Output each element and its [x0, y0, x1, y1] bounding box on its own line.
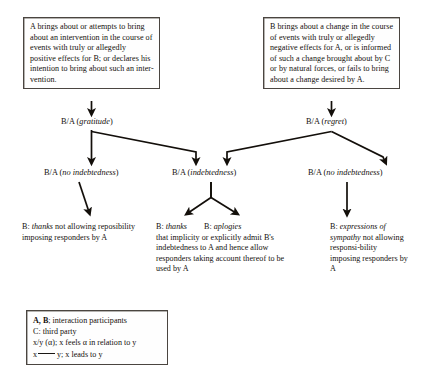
tree-node-indebtedness-prefix: B/A (	[172, 168, 190, 177]
leaf-left-emphasis: thanks	[32, 222, 53, 231]
edge-indebtedness-to-apologies	[211, 198, 236, 214]
legend-key-feels: x/y (α)	[33, 338, 55, 347]
legend-box: A, B; interaction participants C: third …	[26, 310, 168, 365]
leaf-mid-head-two-lead: B:	[204, 222, 212, 231]
tree-node-no-indebtedness-right: B/A (no indebtedness)	[308, 168, 383, 178]
edge-regret-to-no-indebtedness	[332, 132, 386, 162]
leaf-thanks-no-indebtedness: B: thanks not allowing reposibility impo…	[22, 222, 144, 243]
leaf-mid-head-one-lead: B:	[156, 222, 164, 231]
legend-row-feels: x/y (α); x feels α in relation to y	[33, 337, 162, 348]
tree-node-gratitude: B/A (gratitude)	[61, 117, 113, 127]
tree-node-indebtedness-suffix: )	[233, 168, 236, 177]
tree-node-no-indebtedness-left-emphasis: no indebtedness	[62, 168, 116, 177]
legend-row-third-party: C: third party	[33, 326, 162, 337]
legend-key-participants: A, B	[33, 316, 48, 325]
premise-box-left: A brings about or attempts to bring abou…	[23, 17, 160, 89]
leaf-right-lead: B:	[330, 222, 338, 231]
legend-text-third-party: : third party	[38, 327, 76, 336]
tree-node-no-indebtedness-right-emphasis: no indebtedness	[326, 168, 380, 177]
tree-node-gratitude-prefix: B/A (	[61, 117, 79, 126]
tree-node-no-indebtedness-left-prefix: B/A (	[44, 168, 62, 177]
edge-no-indebtedness-left-to-leaf	[79, 182, 89, 212]
legend-rule-icon	[38, 353, 55, 354]
leaf-mid-head-two: B: aplogies	[204, 222, 241, 233]
tree-node-gratitude-emphasis: gratitude	[79, 117, 110, 126]
leaf-mid-head-one: B: thanks	[156, 222, 187, 233]
tree-node-no-indebtedness-right-suffix: )	[380, 168, 383, 177]
leaf-mid-head-two-emphasis: aplogies	[214, 222, 242, 231]
legend-text-feels: ; x feels α in relation to y	[55, 338, 136, 347]
tree-node-regret-suffix: )	[344, 117, 347, 126]
tree-node-indebtedness-emphasis: indebtedness	[190, 168, 233, 177]
tree-node-regret: B/A (regret)	[306, 117, 347, 127]
premise-box-right: B brings about a change in the course of…	[263, 17, 400, 89]
legend-row-leads-to: xy; x leads to y	[33, 349, 162, 360]
edge-indebtedness-to-thanks	[188, 182, 211, 213]
legend-leads-text: ; x leads to y	[61, 350, 102, 359]
tree-node-indebtedness: B/A (indebtedness)	[172, 168, 236, 178]
legend-row-participants: A, B; interaction participants	[33, 315, 162, 326]
legend-leads-from: x	[33, 350, 37, 359]
leaf-mid-heads: B: thanks B: aplogies	[156, 222, 290, 233]
tree-node-regret-emphasis: regret	[324, 117, 344, 126]
tree-node-no-indebtedness-right-prefix: B/A (	[308, 168, 326, 177]
leaf-thanks-apologies-indebtedness: B: thanks B: aplogies that implicity or …	[156, 222, 290, 275]
leaf-mid-body: that implicity or explicitly admit B's i…	[156, 233, 290, 275]
tree-node-gratitude-suffix: )	[110, 117, 113, 126]
premise-left-text: A brings about or attempts to bring abou…	[30, 22, 154, 84]
premise-right-text: B brings about a change in the course of…	[270, 22, 393, 84]
edge-regret-to-indebtedness	[227, 132, 332, 162]
leaf-left-lead: B:	[22, 222, 30, 231]
leaf-mid-head-one-emphasis: thanks	[166, 222, 187, 231]
tree-node-regret-prefix: B/A (	[306, 117, 324, 126]
legend-text-participants: ; interaction participants	[48, 316, 127, 325]
tree-node-no-indebtedness-left-suffix: )	[116, 168, 119, 177]
edge-gratitude-to-indebtedness	[92, 132, 197, 162]
tree-node-no-indebtedness-left: B/A (no indebtedness)	[44, 168, 119, 178]
leaf-expressions-of-sympathy: B: expressions of sympathy not allowing …	[330, 222, 408, 275]
